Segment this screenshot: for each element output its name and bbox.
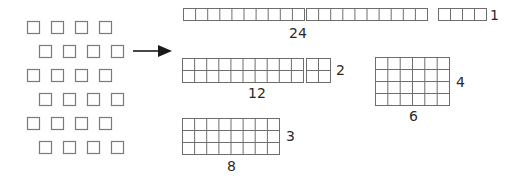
unit-square [52, 118, 64, 130]
unit-square [40, 142, 52, 154]
array-24x1-height-label: 1 [490, 8, 499, 22]
unit-square [88, 142, 100, 154]
unit-square [112, 142, 124, 154]
unit-square [76, 22, 88, 34]
source-squares [28, 22, 124, 154]
unit-square [64, 142, 76, 154]
unit-square [40, 46, 52, 58]
array-6x4-height-label: 4 [456, 75, 465, 89]
unit-square [100, 118, 112, 130]
unit-square [112, 94, 124, 106]
array-8x3-height-label: 3 [286, 129, 295, 143]
unit-square [40, 94, 52, 106]
array-8x3 [183, 119, 280, 155]
array-12x2 [183, 59, 331, 83]
unit-square [88, 94, 100, 106]
array-diagram: 24 1 12 2 6 4 8 3 [0, 0, 522, 182]
unit-square [28, 70, 40, 82]
unit-square [100, 70, 112, 82]
array-12x2-width-label: 12 [248, 86, 266, 100]
unit-square [88, 46, 100, 58]
array-12x2-height-label: 2 [336, 63, 345, 77]
array-8x3-width-label: 8 [227, 159, 236, 173]
array-6x4-width-label: 6 [409, 109, 418, 123]
array-24x1 [184, 9, 487, 21]
unit-square [28, 22, 40, 34]
array-24x1-width-label: 24 [289, 26, 307, 40]
unit-square [64, 94, 76, 106]
unit-square [76, 118, 88, 130]
right-arrow-icon [133, 45, 172, 57]
unit-square [112, 46, 124, 58]
unit-square [64, 46, 76, 58]
array-6x4 [376, 58, 450, 106]
unit-square [28, 118, 40, 130]
unit-square [76, 70, 88, 82]
unit-square [52, 70, 64, 82]
unit-square [52, 22, 64, 34]
unit-square [100, 22, 112, 34]
